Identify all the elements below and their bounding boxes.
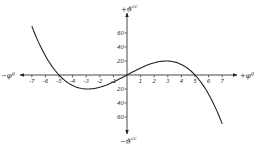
y-tick-label: 60 bbox=[117, 114, 124, 120]
x-tick-label: 1 bbox=[139, 78, 143, 84]
x-tick-label: -2 bbox=[97, 78, 103, 84]
x-axis-negative-label: −φg bbox=[1, 70, 15, 80]
x-tick-label: -3 bbox=[83, 78, 89, 84]
x-tick-label: 4 bbox=[180, 78, 184, 84]
y-tick-label: 40 bbox=[117, 100, 124, 106]
x-tick-label: -6 bbox=[43, 78, 49, 84]
y-axis-negative-label: −ϑcc bbox=[120, 135, 137, 146]
y-tick-label: 40 bbox=[117, 44, 124, 50]
y-axis-positive-label: +ϑcc bbox=[121, 3, 138, 14]
x-tick-label: 5 bbox=[193, 78, 197, 84]
y-tick-label: 20 bbox=[117, 58, 124, 64]
x-tick-label: 2 bbox=[152, 78, 156, 84]
x-tick-label: 6 bbox=[207, 78, 211, 84]
x-tick-label: 7 bbox=[220, 78, 224, 84]
x-tick-label: -7 bbox=[29, 78, 35, 84]
chart: -7-6-5-4-3-2-11234567 604020204060 −φg +… bbox=[0, 0, 265, 147]
x-tick-label: -4 bbox=[70, 78, 76, 84]
x-tick-label: 3 bbox=[166, 78, 170, 84]
x-axis-positive-label: +φg bbox=[240, 70, 254, 80]
y-tick-label: 60 bbox=[117, 30, 124, 36]
y-tick-label: 20 bbox=[117, 86, 124, 92]
x-tick-label: -5 bbox=[56, 78, 62, 84]
